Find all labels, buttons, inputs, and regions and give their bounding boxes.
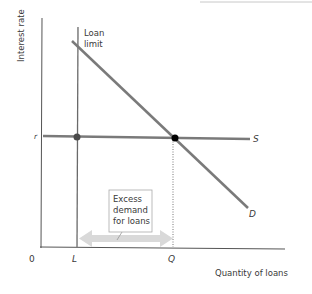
rate-tick-label: r: [34, 132, 38, 141]
loan-limit-point: [74, 134, 81, 141]
y-axis-label: Interest rate: [16, 9, 26, 62]
equilibrium-quantity-label: Q: [168, 254, 175, 264]
loan-limit-label-2: limit: [84, 39, 103, 49]
callout-line-2: demand: [113, 205, 148, 215]
demand-label: D: [249, 209, 256, 219]
x-axis-label: Quantity of loans: [215, 268, 288, 278]
excess-demand-arrow: [79, 230, 173, 247]
origin-label: 0: [29, 254, 35, 264]
loan-limit-label-1: Loan: [84, 28, 104, 38]
equilibrium-point: [172, 135, 179, 142]
demand-curve: [72, 41, 248, 208]
loan-market-diagram: Interest rate Loan limit Excess demand f…: [0, 0, 312, 294]
y-axis: [41, 18, 42, 248]
callout-line-1: Excess: [113, 194, 143, 204]
excess-demand-callout: Excess demand for loans: [109, 190, 152, 240]
supply-label: S: [253, 134, 259, 144]
limit-quantity-label: L: [72, 254, 77, 264]
callout-line-3: for loans: [113, 216, 151, 226]
x-axis: [40, 247, 285, 249]
